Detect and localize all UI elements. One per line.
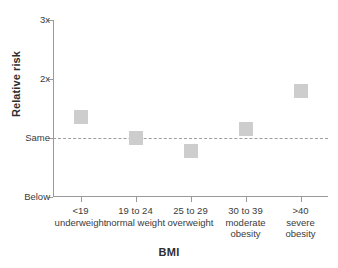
y-tick-label: 2x xyxy=(40,72,50,85)
x-tick-label-4: >40severeobesity xyxy=(263,205,338,240)
x-tick-label-line: obesity xyxy=(263,228,338,240)
x-tick-mark-1 xyxy=(136,197,137,202)
x-tick-label-line: severe xyxy=(263,217,338,229)
data-marker-4 xyxy=(294,84,308,98)
data-marker-1 xyxy=(129,131,143,145)
y-axis-title: Relative risk xyxy=(10,36,22,132)
reference-line-same xyxy=(53,138,328,139)
y-tick-label: Same xyxy=(25,131,50,144)
x-tick-label-line: >40 xyxy=(263,205,338,217)
y-tick-label: Below xyxy=(24,190,50,203)
x-axis-title: BMI xyxy=(0,246,338,258)
x-tick-mark-0 xyxy=(81,197,82,202)
data-marker-3 xyxy=(239,122,253,136)
y-axis-line xyxy=(53,20,54,197)
x-tick-mark-4 xyxy=(301,197,302,202)
chart-figure: Relative risk BMI BelowSame2x3x <19under… xyxy=(0,0,338,268)
y-tick-label: 3x xyxy=(40,13,50,26)
plot-area: BelowSame2x3x <19underweight19 to 24norm… xyxy=(53,20,328,197)
data-marker-0 xyxy=(74,110,88,124)
x-tick-mark-2 xyxy=(191,197,192,202)
data-marker-2 xyxy=(184,144,198,158)
x-tick-mark-3 xyxy=(246,197,247,202)
